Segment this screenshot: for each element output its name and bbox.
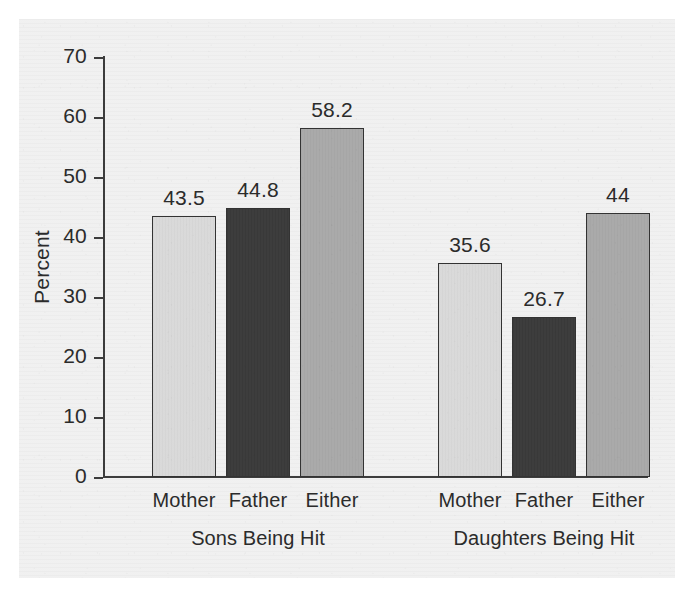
y-tick-label: 70: [25, 44, 87, 68]
category-label: Either: [568, 489, 668, 512]
bar-value-label: 44: [568, 183, 668, 207]
y-tick-mark: [94, 57, 103, 59]
y-tick-label: 0: [25, 464, 87, 488]
y-axis-title: Percent: [30, 182, 54, 352]
plot-area: Percent 010203040506070 43.5Mother44.8Fa…: [19, 19, 675, 578]
y-tick-label: 20: [25, 344, 87, 368]
bar-value-label: 26.7: [494, 287, 594, 311]
y-tick-label: 50: [25, 164, 87, 188]
y-tick-mark: [94, 477, 103, 479]
y-tick-label: 30: [25, 284, 87, 308]
y-axis-line: [103, 56, 105, 478]
bar-value-label: 44.8: [208, 178, 308, 202]
y-tick-mark: [94, 117, 103, 119]
bar: [512, 317, 576, 477]
y-tick-mark: [94, 297, 103, 299]
bar: [300, 128, 364, 477]
y-tick-label: 40: [25, 224, 87, 248]
bar: [226, 208, 290, 477]
y-tick-mark: [94, 177, 103, 179]
category-label: Either: [282, 489, 382, 512]
y-tick-mark: [94, 357, 103, 359]
bar: [152, 216, 216, 477]
y-tick-label: 10: [25, 404, 87, 428]
bar-value-label: 35.6: [420, 233, 520, 257]
chart-panel: Percent 010203040506070 43.5Mother44.8Fa…: [19, 19, 675, 578]
y-tick-label: 60: [25, 104, 87, 128]
bar: [438, 263, 502, 477]
figure: Percent 010203040506070 43.5Mother44.8Fa…: [0, 0, 694, 598]
bar-value-label: 58.2: [282, 98, 382, 122]
y-tick-mark: [94, 417, 103, 419]
y-tick-mark: [94, 237, 103, 239]
bar: [586, 213, 650, 477]
group-label: Daughters Being Hit: [374, 527, 694, 550]
